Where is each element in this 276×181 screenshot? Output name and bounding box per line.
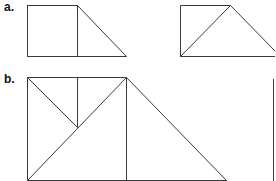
figure-b: [28, 78, 227, 181]
slant-edge: [127, 78, 227, 181]
slant-edge: [231, 6, 276, 53]
figure-a-left: [28, 6, 127, 57]
triangle-shape: [78, 6, 127, 57]
square-shape: [28, 6, 78, 57]
geometry-diagram: [0, 0, 275, 181]
inner-diagonal: [28, 78, 78, 128]
diagonal-line: [181, 6, 231, 57]
figure-a-right: [181, 6, 276, 57]
trapezoid-outline: [181, 6, 276, 57]
